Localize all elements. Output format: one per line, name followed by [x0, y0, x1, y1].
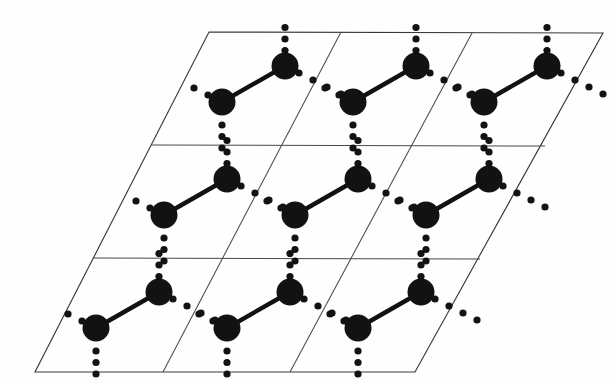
- dot-diag-out-cell-5-4: [541, 203, 548, 210]
- dot-diag-in-cell-6-2: [64, 310, 71, 317]
- dot-down-cell-7-3: [223, 370, 230, 377]
- dot-up-cell-7-3: [286, 250, 293, 257]
- dot-diag-in-cell-1-2: [321, 84, 328, 91]
- dot-down-cell-7-1: [223, 347, 230, 354]
- atom-lower-cell-2: [471, 89, 498, 116]
- dot-diag-out-cell-8-2: [445, 302, 452, 309]
- atom-upper-cell-8: [408, 279, 435, 306]
- dot-up-cell-0-2: [281, 35, 288, 42]
- atom-lower-cell-6: [83, 315, 110, 342]
- dot-diag-in-cell-0-2: [190, 84, 197, 91]
- dot-up-cell-3-3: [223, 137, 230, 144]
- atom-lower-cell-7: [214, 315, 241, 342]
- dot-diag-out-cell-4-2: [382, 189, 389, 196]
- dot-up-cell-2-3: [543, 24, 550, 31]
- atom-lower-cell-8: [345, 315, 372, 342]
- dot-diag-out-cell-1-2: [440, 76, 447, 83]
- dot-up-cell-6-3: [155, 250, 162, 257]
- dot-diag-out-cell-5-2: [513, 189, 520, 196]
- dot-diag-in-cell-2-2: [452, 84, 459, 91]
- dot-down-cell-3-1: [160, 234, 167, 241]
- dot-up-cell-0-3: [281, 24, 288, 31]
- dot-diag-out-cell-5-3: [527, 196, 534, 203]
- dot-down-cell-5-1: [422, 234, 429, 241]
- dot-down-cell-8-3: [354, 370, 361, 377]
- dot-diag-out-cell-8-3: [459, 309, 466, 316]
- dot-diag-out-cell-2-2: [571, 76, 578, 83]
- dot-diag-out-cell-3-2: [251, 189, 258, 196]
- dot-up-cell-7-2: [286, 261, 293, 268]
- dot-diag-in-cell-8-2: [326, 310, 333, 317]
- dot-up-cell-5-2: [485, 148, 492, 155]
- atom-upper-cell-0: [272, 53, 299, 80]
- atom-upper-cell-7: [277, 279, 304, 306]
- dot-diag-out-cell-8-4: [473, 316, 480, 323]
- atom-upper-cell-4: [345, 166, 372, 193]
- atom-upper-cell-1: [403, 53, 430, 80]
- dot-down-cell-4-1: [291, 234, 298, 241]
- dot-diag-in-cell-7-2: [195, 310, 202, 317]
- atom-upper-cell-3: [214, 166, 241, 193]
- lattice-canvas: [0, 0, 615, 384]
- dot-up-cell-1-2: [412, 35, 419, 42]
- dot-up-cell-1-3: [412, 24, 419, 31]
- dot-down-cell-6-2: [92, 359, 99, 366]
- dot-down-cell-8-2: [354, 359, 361, 366]
- atom-lower-cell-1: [340, 89, 367, 116]
- dot-up-cell-6-2: [155, 261, 162, 268]
- dot-down-cell-2-1: [480, 121, 487, 128]
- dot-down-cell-7-2: [223, 359, 230, 366]
- dot-diag-out-cell-7-2: [314, 302, 321, 309]
- dot-up-cell-3-2: [223, 148, 230, 155]
- atom-upper-cell-6: [146, 279, 173, 306]
- dot-up-cell-4-3: [354, 137, 361, 144]
- atom-lower-cell-0: [209, 89, 236, 116]
- dot-up-cell-8-3: [417, 250, 424, 257]
- atom-upper-cell-5: [476, 166, 503, 193]
- dot-diag-out-cell-2-3: [585, 83, 592, 90]
- dot-down-cell-8-1: [354, 347, 361, 354]
- dot-diag-in-cell-4-2: [263, 197, 270, 204]
- dot-down-cell-0-1: [218, 121, 225, 128]
- dot-up-cell-2-2: [543, 35, 550, 42]
- dot-down-cell-6-1: [92, 347, 99, 354]
- atom-lower-cell-3: [151, 202, 178, 229]
- dot-diag-in-cell-3-2: [132, 197, 139, 204]
- atom-upper-cell-2: [534, 53, 561, 80]
- dot-down-cell-6-3: [92, 370, 99, 377]
- dot-diag-out-cell-2-4: [599, 90, 606, 97]
- lattice-figure: Two-dimensional lattice of a layered str…: [0, 0, 615, 384]
- dot-diag-out-cell-0-2: [309, 76, 316, 83]
- dot-diag-out-cell-6-2: [183, 302, 190, 309]
- atom-lower-cell-5: [413, 202, 440, 229]
- dot-up-cell-8-2: [417, 261, 424, 268]
- dot-down-cell-1-1: [349, 121, 356, 128]
- dot-up-cell-5-3: [485, 137, 492, 144]
- dot-up-cell-4-2: [354, 148, 361, 155]
- dot-diag-in-cell-5-2: [394, 197, 401, 204]
- atom-lower-cell-4: [282, 202, 309, 229]
